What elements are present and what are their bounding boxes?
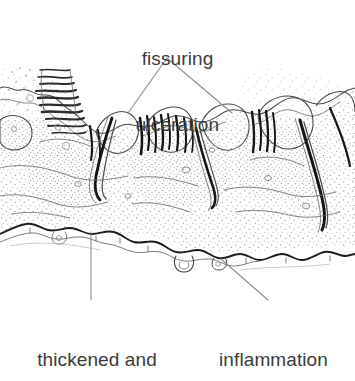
label-thickened-inflamed-submucosa: thickened and inflamed submucosa (4, 305, 190, 381)
label-fissuring-line1: fissuring (0, 48, 355, 70)
label-inflammation-in-serosa: inflammation in serosa (196, 305, 351, 381)
label-fissuring-line2: ulceration (0, 114, 355, 136)
label-submucosa-line1: thickened and (4, 349, 190, 371)
label-fissuring-ulceration: fissuring ulceration (0, 4, 355, 158)
leader-serosa (221, 259, 268, 300)
label-serosa-line1: inflammation (196, 349, 351, 371)
